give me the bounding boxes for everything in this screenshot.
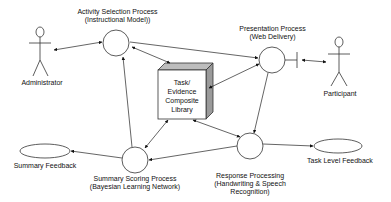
activity-selection-subtitle: (Instructional Model))	[60, 16, 175, 24]
activity-selection-label: Activity Selection Process (Instructiona…	[60, 8, 175, 24]
administrator-label: Administrator	[12, 79, 72, 87]
summary-feedback-label: Summary Feedback	[5, 162, 85, 170]
library-line1: Task/	[158, 78, 206, 87]
presentation-title: Presentation Process	[225, 25, 320, 33]
task-level-feedback-node	[314, 139, 362, 153]
activity-selection-title: Activity Selection Process	[60, 8, 175, 16]
library-label: Task/ Evidence Composite Library	[158, 78, 206, 114]
administrator-text: Administrator	[12, 79, 72, 87]
summary-scoring-subtitle: (Bayesian Learning Network)	[85, 183, 185, 191]
response-processing-title: Response Processing	[205, 172, 295, 180]
summary-scoring-label: Summary Scoring Process (Bayesian Learni…	[85, 175, 185, 191]
library-line2: Evidence	[158, 87, 206, 96]
summary-feedback-text: Summary Feedback	[5, 162, 85, 170]
response-processing-label: Response Processing (Handwriting & Speec…	[205, 172, 295, 196]
summary-feedback-node	[20, 144, 70, 158]
library-line4: Library	[158, 105, 206, 114]
task-level-feedback-text: Task Level Feedback	[300, 157, 380, 165]
summary-scoring-process-node	[122, 147, 148, 173]
participant-actor-icon	[328, 37, 350, 86]
response-processing-subtitle: (Handwriting & Speech	[205, 180, 295, 188]
activity-selection-process-node	[103, 30, 129, 56]
presentation-subtitle: (Web Delivery)	[225, 33, 320, 41]
presentation-process-node	[259, 47, 285, 73]
participant-label: Participant	[310, 90, 370, 98]
library-line3: Composite	[158, 96, 206, 105]
presentation-label: Presentation Process (Web Delivery)	[225, 25, 320, 41]
response-processing-process-node	[237, 133, 263, 159]
participant-text: Participant	[310, 90, 370, 98]
summary-scoring-title: Summary Scoring Process	[85, 175, 185, 183]
task-level-feedback-label: Task Level Feedback	[300, 157, 380, 165]
administrator-actor-icon	[29, 27, 51, 76]
response-processing-subtitle2: Recognition)	[205, 188, 295, 196]
